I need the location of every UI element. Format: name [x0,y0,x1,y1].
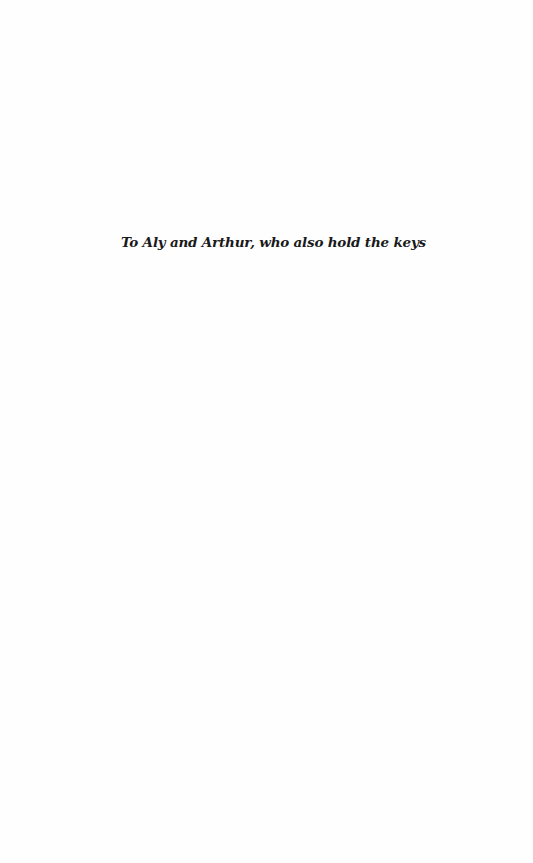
book-page: To Aly and Arthur, who also hold the key… [0,0,533,863]
dedication-text: To Aly and Arthur, who also hold the key… [0,233,533,251]
